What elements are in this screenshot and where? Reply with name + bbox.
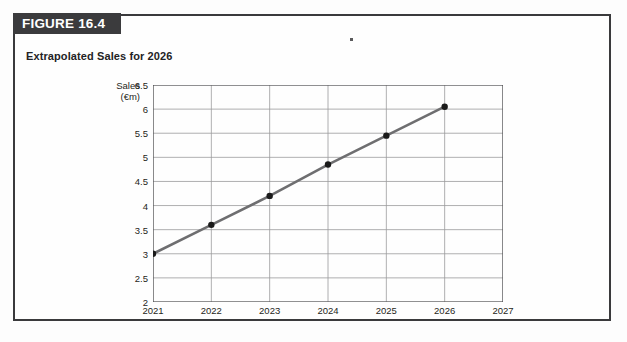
y-axis-tick-label: 4 [143,200,148,211]
data-point-marker [383,132,389,138]
y-axis-tick-label: 3.5 [135,224,148,235]
x-axis-tick-label: 2021 [142,305,163,316]
y-axis-tick-label: 6 [143,104,148,115]
y-axis-tick-label: 2.5 [135,272,148,283]
y-axis-tick-label: 6.5 [135,80,148,91]
x-axis-tick-label: 2026 [434,305,455,316]
x-axis-tick-label: 2023 [259,305,280,316]
x-axis-tick-label: 2027 [492,305,513,316]
data-point-marker [325,161,331,167]
plot-svg [153,85,503,302]
figure-number-label: FIGURE 16.4 [13,16,105,31]
y-axis-tick-label: 3 [143,248,148,259]
scan-artifact-speck [350,38,353,41]
x-axis-tick-labels: 2021202220232024202520262027 [153,305,503,319]
y-axis-tick-labels: 22.533.544.555.566.5 [96,85,148,302]
y-axis-tick-label: 5.5 [135,128,148,139]
y-axis-tick-label: 4.5 [135,176,148,187]
figure-number-banner: FIGURE 16.4 [13,13,121,34]
x-axis-tick-label: 2025 [376,305,397,316]
grid-lines [153,85,503,302]
figure-container: FIGURE 16.4 Extrapolated Sales for 2026 … [0,0,627,342]
data-point-marker [266,193,272,199]
sales-line-series [153,107,445,254]
plot-area [153,85,503,302]
data-point-marker [208,222,214,228]
chart: Sales (€m) 22.533.544.555.566.5 20212022… [96,76,526,316]
data-point-marker [441,104,447,110]
x-axis-tick-label: 2024 [317,305,338,316]
x-axis-tick-label: 2022 [201,305,222,316]
y-axis-tick-label: 5 [143,152,148,163]
figure-title: Extrapolated Sales for 2026 [26,50,172,62]
